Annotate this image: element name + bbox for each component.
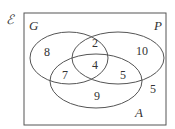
set-p-ellipse xyxy=(72,32,164,84)
venn-diagram: ℰ G P A 8 2 10 4 7 5 9 5 xyxy=(0,0,175,129)
set-label-g: G xyxy=(29,18,39,33)
region-g-only: 8 xyxy=(44,45,50,59)
region-g-and-p: 2 xyxy=(92,36,98,50)
universal-set-symbol: ℰ xyxy=(6,12,15,27)
region-a-only: 9 xyxy=(94,89,100,103)
region-all-three: 4 xyxy=(92,58,98,72)
region-g-and-a: 7 xyxy=(62,68,68,82)
region-outside: 5 xyxy=(150,82,156,96)
set-label-a: A xyxy=(134,105,143,120)
region-p-only: 10 xyxy=(136,44,148,58)
region-p-and-a: 5 xyxy=(120,68,126,82)
set-label-p: P xyxy=(153,18,162,33)
